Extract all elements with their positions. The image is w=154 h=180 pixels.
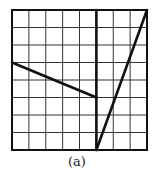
grid-diagram bbox=[0, 0, 154, 154]
grid-lines bbox=[12, 10, 147, 150]
figure-caption: (a) bbox=[0, 154, 154, 169]
